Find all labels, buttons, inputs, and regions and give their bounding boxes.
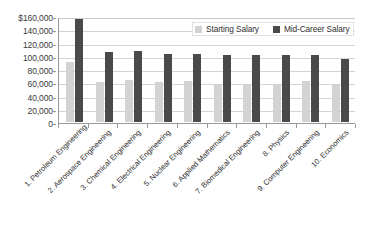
bar-starting[interactable] xyxy=(243,84,251,122)
salary-bar-chart: 020,00040,00060,00080,000100,000120,0001… xyxy=(0,0,365,228)
y-tick-label: 100,000 xyxy=(23,53,53,63)
bar-starting[interactable] xyxy=(155,82,163,122)
x-axis-labels: 1. Petroleum Engineering2. Aerospace Eng… xyxy=(0,128,365,228)
y-tick-mark xyxy=(53,31,56,32)
y-tick-mark xyxy=(53,111,56,112)
y-tick-label: 140,000 xyxy=(23,26,53,36)
bar-starting[interactable] xyxy=(214,84,222,122)
legend-label: Starting Salary xyxy=(206,24,259,34)
legend-swatch-icon xyxy=(273,26,280,33)
bar-starting[interactable] xyxy=(184,81,192,122)
bar-group xyxy=(119,18,149,122)
legend-label: Mid-Career Salary xyxy=(284,24,350,34)
bar-midcareer[interactable] xyxy=(164,54,172,122)
y-tick-mark xyxy=(53,124,56,125)
bar-starting[interactable] xyxy=(125,80,133,122)
bar-starting[interactable] xyxy=(302,81,310,122)
chart-legend: Starting SalaryMid-Career Salary xyxy=(192,22,354,36)
y-tick-label: 60,000 xyxy=(28,79,53,89)
bar-group xyxy=(149,18,179,122)
legend-entry[interactable]: Starting Salary xyxy=(195,24,259,34)
bar-midcareer[interactable] xyxy=(134,51,142,122)
bar-midcareer[interactable] xyxy=(105,52,113,122)
y-tick-label: 120,000 xyxy=(23,40,53,50)
y-axis: 020,00040,00060,00080,000100,000120,0001… xyxy=(0,18,56,124)
y-tick-mark xyxy=(53,84,56,85)
y-tick-mark xyxy=(53,71,56,72)
bar-midcareer[interactable] xyxy=(311,55,319,122)
y-tick-label: 80,000 xyxy=(28,66,53,76)
x-axis-category-label: 10. Economics xyxy=(101,128,351,228)
bar-group xyxy=(60,18,90,122)
bar-midcareer[interactable] xyxy=(282,55,290,122)
bar-midcareer[interactable] xyxy=(341,59,349,122)
legend-swatch-icon xyxy=(195,26,202,33)
bar-starting[interactable] xyxy=(273,84,281,122)
y-tick-mark xyxy=(53,45,56,46)
bar-starting[interactable] xyxy=(96,82,104,122)
y-tick-mark xyxy=(53,18,56,19)
x-axis-category-label: 1. Petroleum Engineering xyxy=(23,128,84,189)
y-tick-label: $160,000 xyxy=(18,13,53,23)
legend-entry[interactable]: Mid-Career Salary xyxy=(273,24,350,34)
bar-midcareer[interactable] xyxy=(223,55,231,122)
bar-group xyxy=(90,18,120,122)
bar-starting[interactable] xyxy=(332,85,340,122)
y-tick-label: 20,000 xyxy=(28,106,53,116)
bar-midcareer[interactable] xyxy=(252,55,260,122)
bar-midcareer[interactable] xyxy=(193,54,201,122)
y-tick-label: 40,000 xyxy=(28,93,53,103)
y-tick-mark xyxy=(53,58,56,59)
bar-starting[interactable] xyxy=(66,62,74,122)
y-tick-mark xyxy=(53,98,56,99)
bar-midcareer[interactable] xyxy=(75,19,83,122)
